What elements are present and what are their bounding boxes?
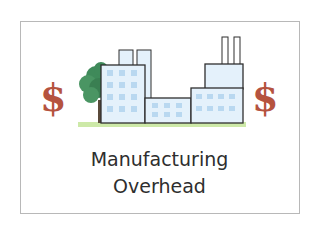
dollar-sign-icon-left: $ — [40, 79, 66, 117]
chimney-1 — [222, 37, 228, 65]
caption-line-1: Manufacturing — [0, 146, 319, 173]
building-right-lower — [191, 88, 243, 123]
building-middle — [145, 98, 191, 123]
tower-left-1 — [119, 50, 133, 66]
dollar-sign-icon-right: $ — [252, 79, 278, 117]
building-right-upper — [205, 64, 243, 89]
caption-line-2: Overhead — [0, 173, 319, 200]
chimney-2 — [234, 37, 240, 65]
